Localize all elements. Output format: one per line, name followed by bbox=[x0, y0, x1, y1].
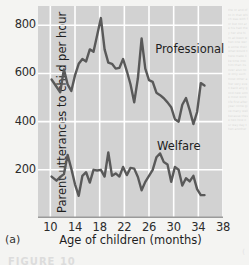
x-tick-label: 34 bbox=[191, 220, 205, 234]
x-tick-label: 10 bbox=[43, 220, 57, 234]
x-axis-title: Age of children (months) bbox=[38, 233, 223, 247]
x-axis-ticks: 1014182226303438 bbox=[38, 220, 223, 234]
panel-label: (a) bbox=[5, 233, 20, 246]
chart-canvas bbox=[38, 6, 223, 218]
plot-area: Parent utterances to child per hour Prof… bbox=[38, 6, 223, 218]
corner-mark: ( bbox=[242, 248, 245, 256]
figure-caption-partial: FIGURE 10 bbox=[8, 256, 76, 265]
x-tick-label: 38 bbox=[216, 220, 230, 234]
y-axis-ticks: 200400600800 bbox=[0, 6, 36, 218]
x-tick-label: 14 bbox=[68, 220, 82, 234]
x-tick-label: 26 bbox=[142, 220, 156, 234]
series-label-professional: Professional bbox=[155, 42, 224, 56]
x-tick-label: 22 bbox=[117, 220, 131, 234]
series-label-welfare: Welfare bbox=[157, 139, 201, 153]
figure-panel-a: the or and of to in that which was with … bbox=[0, 0, 249, 265]
x-tick-label: 30 bbox=[167, 220, 181, 234]
y-tick-label: 600 bbox=[15, 67, 36, 78]
page-margin-text: the or and of to in that which was with … bbox=[228, 8, 248, 213]
y-tick-label: 400 bbox=[15, 116, 36, 127]
y-tick-label: 200 bbox=[15, 164, 36, 175]
y-tick-label: 800 bbox=[15, 19, 36, 30]
x-tick-label: 18 bbox=[93, 220, 107, 234]
